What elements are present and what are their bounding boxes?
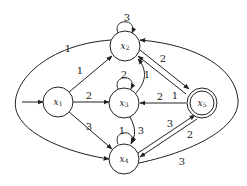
edge-label: 2 bbox=[160, 53, 166, 64]
edge-x1-x2 bbox=[68, 56, 112, 93]
edge-label: 1 bbox=[77, 65, 83, 76]
edge-label: 2 bbox=[187, 129, 193, 140]
graph-diagram: 1 2 3 1 3 2 1 1 2 1 2 3 3 2 3 x1 x2 x3 bbox=[0, 0, 247, 186]
edge-label: 1 bbox=[144, 69, 150, 80]
node-x1: x1 bbox=[43, 87, 73, 117]
edge-label: 1 bbox=[65, 43, 71, 54]
edge-label: 1 bbox=[172, 90, 178, 101]
edge-label: 2 bbox=[86, 90, 92, 101]
edge-label: 2 bbox=[121, 69, 127, 80]
node-x2: x2 bbox=[110, 31, 140, 61]
edge-label: 3 bbox=[138, 125, 144, 136]
edge-label: 3 bbox=[179, 156, 185, 167]
edge-label: 3 bbox=[124, 12, 130, 23]
node-x5-accepting: x5 bbox=[187, 88, 217, 118]
edge-label: 3 bbox=[167, 118, 173, 129]
edge-label: 2 bbox=[157, 91, 163, 102]
node-x3: x3 bbox=[109, 88, 139, 118]
edge-label: 3 bbox=[86, 121, 92, 132]
edge-label: 1 bbox=[119, 125, 125, 136]
node-x4: x4 bbox=[109, 144, 139, 174]
